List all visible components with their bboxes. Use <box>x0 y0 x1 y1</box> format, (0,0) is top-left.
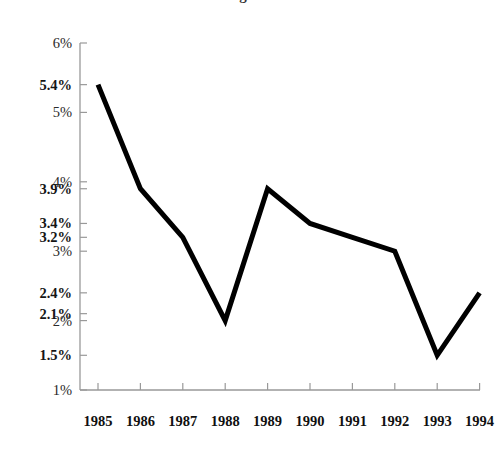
x-tick-label: 1991 <box>328 414 376 429</box>
x-tick-label: 1986 <box>116 414 164 429</box>
x-tick-label: 1989 <box>244 414 292 429</box>
x-tick-label: 1987 <box>159 414 207 429</box>
x-tick-label: 1993 <box>413 414 461 429</box>
x-tick-label: 1992 <box>371 414 419 429</box>
x-tick-label: 1985 <box>74 414 122 429</box>
x-tick-label: 1990 <box>286 414 334 429</box>
x-tick-label: 1988 <box>201 414 249 429</box>
x-tick-label: 1994 <box>456 414 499 429</box>
